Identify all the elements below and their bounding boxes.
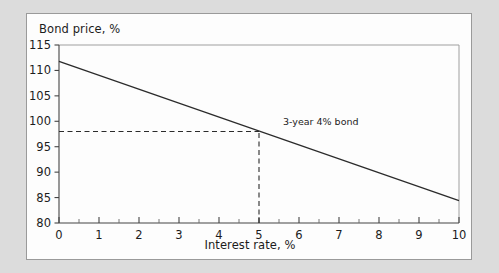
series-label: 3-year 4% bond — [283, 116, 359, 127]
y-tick-label: 100 — [29, 114, 51, 128]
y-tick-label: 95 — [36, 140, 51, 154]
figure-panel: Bond price, % 80859095100105110115012345… — [26, 13, 472, 260]
line-chart-plot: 808590951001051101150123456789103-year 4… — [27, 14, 473, 261]
figure-root: Bond price, % 80859095100105110115012345… — [0, 0, 499, 273]
y-tick-label: 80 — [36, 216, 51, 230]
y-tick-label: 110 — [29, 63, 51, 77]
y-tick-label: 105 — [29, 89, 51, 103]
y-tick-label: 115 — [29, 38, 51, 52]
x-axis-title: Interest rate, % — [27, 238, 473, 252]
y-tick-label: 90 — [36, 165, 51, 179]
y-tick-label: 85 — [36, 191, 51, 205]
